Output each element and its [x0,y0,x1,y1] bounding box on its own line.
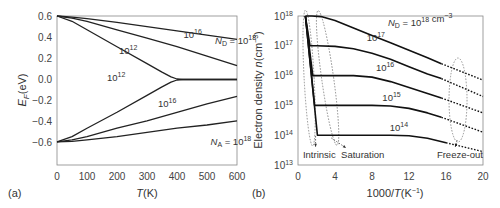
panel-a-y-ticks: 0.60.40.20.0−0.2−0.4−0.6 [32,11,52,149]
panel-b-y-ticks: 101810171016101510141013 [274,10,293,171]
x-tick-label: 100 [79,171,96,182]
curve-annotation: 1016 [376,61,394,73]
curve-annotation: 1012 [119,44,137,56]
panel-a-x-ticks: 0100200300400500600 [54,171,246,182]
curve-n-d-10-12 [57,16,237,80]
x-tick-label: 600 [229,171,246,182]
curve-annotation: 1017 [367,31,385,43]
saturation-arrow-head [343,145,346,148]
y-tick-label: 1017 [274,39,293,51]
y-tick-label: 0.4 [38,32,52,43]
panel-a-x-axis-label: T(K) [136,187,157,199]
x-tick-label: 20 [477,171,489,182]
panel-a-lines [57,16,237,142]
panel-b-y-axis-label: Electron density n(cm−3) [252,31,264,148]
y-tick-label: 1016 [274,69,293,81]
figure: 0.60.40.20.0−0.2−0.4−0.6 010020030040050… [0,0,500,208]
curve-n-a-10-16 [57,96,237,141]
curve-annotation: 1016 [158,97,176,109]
x-tick-label: 200 [109,171,126,182]
curve-extrapolation-n-d-10-16 [441,98,483,113]
y-tick-label: −0.6 [32,137,52,148]
panel-b-chart: 101810171016101510141013 048121620 ND = … [252,10,489,200]
region-label-intrinsic: Intrinsic [303,149,336,160]
x-tick-label: 8 [369,171,375,182]
y-tick-label: 1015 [274,99,293,111]
curve-annotation: ND = 1018 [215,34,256,47]
y-tick-label: −0.4 [32,116,52,127]
panel-b-annotations: ND = 1018 cm−31017101610151014IntrinsicS… [303,12,483,160]
y-tick-label: 1018 [274,10,293,22]
curve-annotation: 1016 [184,28,202,40]
panel-a-y-axis-label: EF(eV) [16,73,31,106]
curve-extrapolation-n-d-10-18 [441,64,483,80]
x-tick-label: 12 [403,171,415,182]
y-tick-label: 1013 [274,159,293,171]
curve-annotation: 1015 [382,91,400,103]
panel-a-chart: 0.60.40.20.0−0.2−0.4−0.6 010020030040050… [8,11,256,199]
y-tick-label: 0.2 [38,53,52,64]
panel-a-annotations: 1016ND = 1018101210121016NA = 1018 [107,28,256,148]
panel-b-plot-frame [298,16,483,165]
y-tick-label: 0.6 [38,11,52,22]
panel-b-label: (b) [252,187,265,199]
curve-extrapolation-n-d-10-15 [441,117,483,132]
x-tick-label: 500 [199,171,216,182]
curve-extrapolation-n-d-10-17 [441,79,483,97]
region-label-saturation: Saturation [341,149,384,160]
region-label-freeze-out: Freeze-out [437,149,483,160]
panel-b-x-axis-label: 1000/T(K−1) [367,187,424,199]
panel-b-x-ticks: 048121620 [295,171,489,182]
x-tick-label: 0 [295,171,301,182]
x-tick-label: 0 [54,171,60,182]
panel-a-label: (a) [8,187,21,199]
y-tick-label: 1014 [274,129,293,141]
freezeout-region-ellipse [449,58,467,142]
intrinsic-region-ellipse [301,10,318,146]
curve-annotation: 1012 [107,71,125,83]
y-tick-label: 0.0 [38,74,52,85]
curve-n-d-10-16 [57,16,237,66]
x-tick-label: 16 [440,171,452,182]
intrinsic-arrow-head [314,144,317,147]
x-tick-label: 400 [169,171,186,182]
curve-annotation: 1014 [390,121,408,133]
curve-annotation: ND = 1018 cm−3 [388,12,453,29]
x-tick-label: 4 [332,171,338,182]
y-tick-label: −0.2 [32,95,52,106]
x-tick-label: 300 [139,171,156,182]
curve-annotation: NA = 1018 [211,135,252,148]
